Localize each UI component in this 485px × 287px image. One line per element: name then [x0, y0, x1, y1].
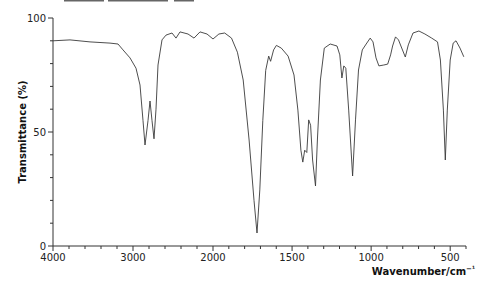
- x-tick-label: 500: [441, 252, 460, 263]
- y-axis: 050100: [27, 13, 53, 252]
- x-axis-title-sup: −¹: [466, 265, 475, 273]
- spectrum-line: [53, 31, 464, 233]
- y-tick-label: 0: [40, 241, 46, 252]
- x-axis: 40003000200015001000500: [40, 246, 466, 263]
- x-tick-label: 2000: [200, 252, 225, 263]
- x-axis-title-main: Wavenumber/cm: [372, 266, 466, 277]
- y-tick-label: 100: [27, 13, 46, 24]
- y-tick-label: 50: [33, 127, 46, 138]
- x-tick-label: 1000: [358, 252, 383, 263]
- cropped-title-fragment: [64, 0, 194, 2]
- x-axis-title: Wavenumber/cm−¹: [372, 265, 475, 277]
- x-tick-label: 1500: [279, 252, 304, 263]
- y-axis-title: Transmittance (%): [17, 80, 28, 183]
- ir-spectrum-chart: 050100 40003000200015001000500 Transmitt…: [0, 0, 485, 287]
- x-tick-label: 4000: [40, 252, 65, 263]
- x-tick-label: 3000: [120, 252, 145, 263]
